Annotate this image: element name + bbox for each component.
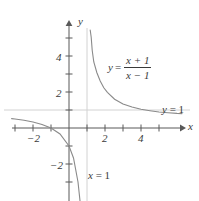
equation-equals: = xyxy=(115,62,121,73)
x-tick-label-4: 4 xyxy=(138,133,144,144)
x-axis-arrow xyxy=(180,125,186,132)
y-tick-label-2: 2 xyxy=(56,88,62,99)
horizontal-asymptote-label: y = 1 xyxy=(162,104,184,115)
equation-denominator: x − 1 xyxy=(124,68,151,81)
x-tick-label-2: 2 xyxy=(102,133,108,144)
equation-numerator: x + 1 xyxy=(124,54,151,67)
x-axis-label: x xyxy=(188,121,193,132)
curve-left-branch xyxy=(12,119,82,201)
y-tick-label-neg2: −2 xyxy=(50,160,63,171)
function-graph-figure: y x −2 2 4 4 2 −2 y = 1 x = 1 y = x + 1 … xyxy=(0,0,199,201)
y-axis-label: y xyxy=(78,16,83,27)
vertical-asymptote-label: x = 1 xyxy=(88,170,110,181)
equation-fraction: x + 1 x − 1 xyxy=(124,54,151,81)
equation-lhs: y xyxy=(108,62,113,73)
y-axis-arrow xyxy=(66,20,73,26)
function-equation-label: y = x + 1 x − 1 xyxy=(108,54,151,81)
x-tick-label-neg2: −2 xyxy=(27,133,40,144)
vertical-asymptote-rest: = 1 xyxy=(93,169,110,181)
y-tick-label-4: 4 xyxy=(56,52,62,63)
horizontal-asymptote-rest: = 1 xyxy=(167,103,184,115)
